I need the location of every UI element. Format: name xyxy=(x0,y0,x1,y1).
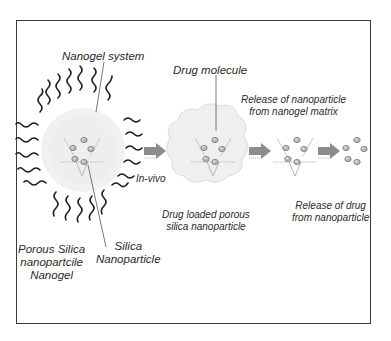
label-release-nanoparticle: Release of nanoparticle from nanogel mat… xyxy=(241,94,346,117)
label-release-drug: Release of drug from nanoparticle xyxy=(292,200,369,223)
arrow-in-vivo xyxy=(144,143,166,159)
released-nanoparticle xyxy=(273,137,317,176)
label-porous-line1: Porous Silica xyxy=(18,243,85,256)
drug-loaded-porous-silica xyxy=(166,75,247,182)
diagram-artwork xyxy=(0,0,391,341)
label-drug-molecule: Drug molecule xyxy=(173,64,247,77)
label-porous-silica-nanogel: Porous Silica nanopartcile Nanogel xyxy=(18,243,85,283)
label-silica-line1: Silica xyxy=(96,240,161,253)
label-release-drug-line1: Release of drug xyxy=(292,200,369,212)
label-in-vivo: In-vivo xyxy=(136,173,165,185)
arrow-release-nanoparticle xyxy=(249,143,271,159)
label-drug-loaded: Drug loaded porous silica nanoparticle xyxy=(162,209,250,232)
released-drug-molecules xyxy=(343,137,367,164)
label-drug-loaded-line2: silica nanoparticle xyxy=(162,221,250,233)
label-drug-loaded-line1: Drug loaded porous xyxy=(162,209,250,221)
label-release-np-line2: from nanogel matrix xyxy=(241,106,346,118)
label-silica-nanoparticle: Silica Nanoparticle xyxy=(96,240,161,266)
arrow-release-drug xyxy=(318,143,340,159)
label-porous-line2: nanopartcile xyxy=(18,256,85,269)
label-porous-line3: Nanogel xyxy=(18,269,85,282)
label-silica-line2: Nanoparticle xyxy=(96,253,161,266)
label-release-np-line1: Release of nanoparticle xyxy=(241,94,346,106)
label-nanogel-system: Nanogel system xyxy=(62,50,144,63)
label-release-drug-line2: from nanoparticle xyxy=(292,212,369,224)
porous-silica-nanogel xyxy=(16,62,142,247)
